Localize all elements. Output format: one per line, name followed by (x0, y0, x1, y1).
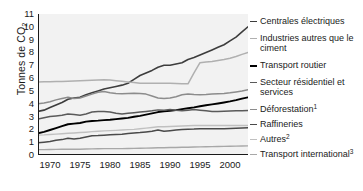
plot-svg (38, 14, 248, 155)
legend-item-label: Raffineries (260, 119, 303, 129)
y-tick-label: 0 (29, 150, 34, 160)
legend-item[interactable]: Centrales électriques (250, 16, 363, 26)
chart-legend: Centrales électriquesIndustries autres q… (250, 14, 363, 159)
legend-item-footnote-marker: 1 (314, 103, 318, 110)
legend-line-swatch-icon (250, 136, 257, 143)
legend-item-label: Transport international3 (260, 149, 353, 159)
series-line (38, 128, 248, 143)
legend-item-label: Transport routier (260, 60, 326, 70)
legend-item[interactable]: Transport international3 (250, 149, 363, 159)
y-axis-tick-labels: 01234567891011 (18, 14, 34, 155)
series-line (38, 90, 248, 104)
series-line (38, 52, 248, 83)
legend-item-label: Industries autres que le ciment (260, 33, 363, 53)
y-tick-label: 3 (29, 112, 34, 122)
legend-line-swatch-icon (250, 62, 257, 69)
series-line (38, 146, 248, 150)
y-tick-label: 1 (29, 137, 34, 147)
legend-item-label: Secteur résidentiel et services (260, 77, 363, 97)
legend-item[interactable]: Déforestation1 (250, 104, 363, 114)
plot-area (38, 14, 248, 155)
legend-line-swatch-icon (250, 35, 257, 42)
x-tick-label: 1970 (39, 160, 60, 170)
y-tick-label: 7 (29, 61, 34, 71)
x-tick-label: 2000 (219, 160, 240, 170)
legend-line-swatch-icon (250, 106, 257, 113)
series-line (38, 126, 248, 136)
x-axis-tick-labels: 1970197519801985199019952000 (38, 160, 248, 174)
legend-item-label: Autres2 (260, 134, 290, 144)
y-tick-label: 11 (24, 9, 34, 19)
legend-item-label: Centrales électriques (260, 16, 345, 26)
legend-line-swatch-icon (250, 79, 257, 86)
x-tick-label: 1975 (69, 160, 90, 170)
legend-item[interactable]: Secteur résidentiel et services (250, 77, 363, 97)
series-line (38, 27, 248, 112)
y-tick-label: 10 (23, 22, 34, 32)
legend-line-swatch-icon (250, 151, 257, 158)
x-tick-label: 1985 (129, 160, 150, 170)
y-tick-label: 8 (29, 48, 34, 58)
x-tick-label: 1980 (99, 160, 120, 170)
legend-item[interactable]: Industries autres que le ciment (250, 33, 363, 53)
legend-item[interactable]: Transport routier (250, 60, 363, 70)
chart-figure: Tonnes de CO2 01234567891011 19701975198… (0, 0, 363, 191)
y-tick-label: 6 (29, 73, 34, 83)
legend-item-footnote-marker: 3 (350, 148, 354, 155)
legend-item[interactable]: Autres2 (250, 134, 363, 144)
legend-line-swatch-icon (250, 121, 257, 128)
y-tick-label: 4 (29, 99, 34, 109)
legend-item-label: Déforestation1 (260, 104, 317, 114)
legend-line-swatch-icon (250, 18, 257, 25)
y-tick-label: 2 (29, 125, 34, 135)
x-tick-label: 1990 (159, 160, 180, 170)
y-tick-label: 5 (29, 86, 34, 96)
legend-item-footnote-marker: 2 (286, 133, 290, 140)
legend-item[interactable]: Raffineries (250, 119, 363, 129)
y-tick-label: 9 (29, 35, 34, 45)
x-tick-label: 1995 (189, 160, 210, 170)
